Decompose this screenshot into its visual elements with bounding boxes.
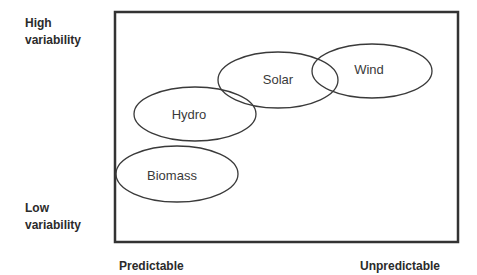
node-biomass: Biomass: [116, 146, 238, 202]
node-solar: Solar: [218, 52, 338, 108]
diagram-frame: [115, 12, 458, 242]
node-hydro: Hydro: [134, 87, 256, 141]
solar-label: Solar: [263, 72, 294, 87]
node-wind: Wind: [312, 44, 432, 98]
wind-label: Wind: [354, 62, 384, 77]
hydro-label: Hydro: [172, 107, 207, 122]
biomass-label: Biomass: [147, 168, 197, 183]
quadrant-diagram: Solar Wind Hydro Biomass: [0, 0, 477, 275]
